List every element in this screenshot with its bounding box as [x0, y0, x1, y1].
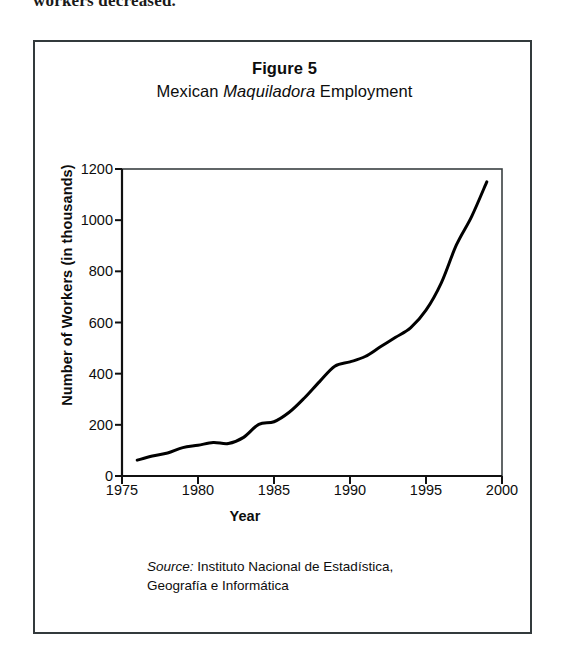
line-chart: Number of Workers (in thousands) 0200400… — [35, 42, 534, 636]
x-axis-tick-label: 1980 — [168, 483, 228, 498]
x-axis-tick-label: 1985 — [244, 483, 304, 498]
plot-box-border — [122, 169, 502, 476]
figure-frame: Figure 5 Mexican Maquiladora Employment … — [33, 40, 532, 634]
y-axis-tick-label-wrap: 1200 — [59, 162, 113, 163]
y-axis-tick-label-wrap: 200 — [59, 418, 113, 419]
source-line-2: Geografía e Informática — [147, 578, 289, 593]
data-series-line — [137, 182, 487, 460]
x-axis-tick-label: 1995 — [396, 483, 456, 498]
y-axis-tick-label: 400 — [65, 367, 113, 382]
y-axis-tick-label: 600 — [65, 316, 113, 331]
y-axis-tick-label: 1000 — [65, 213, 113, 228]
source-label: Source: — [147, 559, 194, 574]
y-axis-tick-label-wrap: 1000 — [59, 213, 113, 214]
source-note: Source: Instituto Nacional de Estadístic… — [147, 558, 487, 595]
x-axis-title: Year — [35, 508, 455, 524]
page-body-text-fragment: workers decreased. — [33, 0, 333, 11]
y-axis-tick-label: 800 — [65, 264, 113, 279]
y-axis-tick-label: 1200 — [65, 162, 113, 177]
x-axis-tick-labels: 197519801985199019952000 — [35, 483, 534, 501]
x-axis-tick-label: 1990 — [320, 483, 380, 498]
x-axis-tick-label: 2000 — [472, 483, 532, 498]
source-line-1: Instituto Nacional de Estadística, — [194, 559, 394, 574]
y-axis-tick-label-wrap: 600 — [59, 316, 113, 317]
y-axis-tick-label-wrap: 800 — [59, 264, 113, 265]
plot-area — [35, 42, 534, 636]
y-axis-tick-label: 200 — [65, 418, 113, 433]
y-axis-tick-label-wrap: 0 — [59, 469, 113, 470]
x-axis-tick-label: 1975 — [92, 483, 152, 498]
y-axis-tick-label-wrap: 400 — [59, 367, 113, 368]
